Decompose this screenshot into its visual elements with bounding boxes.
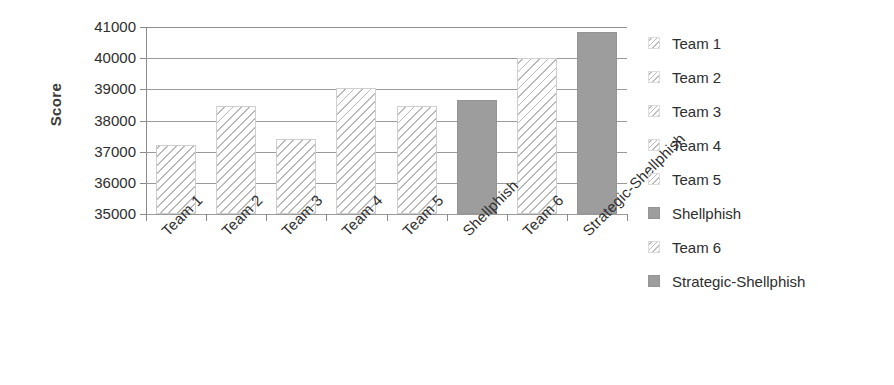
x-tick-mark (326, 214, 327, 221)
y-tick-label: 35000 (50, 206, 136, 221)
y-tick-label: 36000 (50, 175, 136, 190)
chart-legend: Team 1Team 2Team 3Team 4Team 5Shellphish… (648, 26, 888, 298)
bar-strategic-shellphish (577, 32, 617, 214)
legend-swatch-icon (648, 207, 660, 219)
legend-label: Team 4 (672, 137, 721, 154)
legend-swatch-icon (648, 37, 660, 49)
legend-label: Team 2 (672, 69, 721, 86)
y-tick-label: 41000 (50, 19, 136, 34)
legend-item[interactable]: Team 6 (648, 230, 888, 264)
y-tick-label: 39000 (50, 81, 136, 96)
x-tick-mark (146, 214, 147, 221)
legend-label: Team 6 (672, 239, 721, 256)
x-tick-mark (387, 214, 388, 221)
legend-label: Strategic-Shellphish (672, 273, 805, 290)
legend-swatch-icon (648, 173, 660, 185)
legend-item[interactable]: Team 1 (648, 26, 888, 60)
legend-label: Shellphish (672, 205, 741, 222)
bar-chart: Score 4100040000390003800037000360003500… (0, 0, 894, 385)
x-tick-mark (206, 214, 207, 221)
legend-swatch-icon (648, 105, 660, 117)
y-tick-label: 40000 (50, 50, 136, 65)
legend-item[interactable]: Shellphish (648, 196, 888, 230)
plot-area (146, 27, 627, 214)
legend-item[interactable]: Team 5 (648, 162, 888, 196)
gridline (146, 27, 627, 28)
legend-item[interactable]: Team 3 (648, 94, 888, 128)
legend-item[interactable]: Strategic-Shellphish (648, 264, 888, 298)
legend-label: Team 5 (672, 171, 721, 188)
x-tick-mark (567, 214, 568, 221)
legend-item[interactable]: Team 2 (648, 60, 888, 94)
x-tick-mark (447, 214, 448, 221)
legend-swatch-icon (648, 275, 660, 287)
legend-label: Team 1 (672, 35, 721, 52)
y-axis-title: Score (47, 60, 64, 150)
y-tick-label: 38000 (50, 113, 136, 128)
y-tick-label: 37000 (50, 144, 136, 159)
bar-team-6 (517, 58, 557, 214)
x-tick-mark (627, 214, 628, 221)
x-tick-mark (507, 214, 508, 221)
legend-swatch-icon (648, 71, 660, 83)
legend-label: Team 3 (672, 103, 721, 120)
legend-swatch-icon (648, 241, 660, 253)
legend-swatch-icon (648, 139, 660, 151)
legend-item[interactable]: Team 4 (648, 128, 888, 162)
x-tick-mark (266, 214, 267, 221)
